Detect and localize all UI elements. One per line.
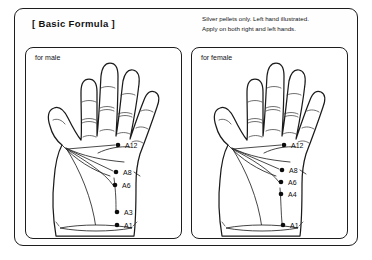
acupoint-label-a12-female: A12 <box>291 142 304 149</box>
acupoint-label-a1-female: A1 <box>290 222 299 229</box>
acupoint-dot-a1-female <box>281 223 286 228</box>
page-title: [ Basic Formula ] <box>32 18 115 29</box>
acupoint-label-a8-female: A8 <box>289 167 298 174</box>
acupoint-dot-a8-male <box>114 170 119 175</box>
acupoint-dot-a8-female <box>280 168 285 173</box>
panel-male: for male <box>25 47 182 239</box>
acupoint-label-a4-female: A4 <box>288 191 297 198</box>
outer-frame: [ Basic Formula ] Silver pellets only. L… <box>14 8 358 246</box>
acupoint-dot-a12-female <box>282 143 287 148</box>
acupoint-dot-a6-female <box>279 180 284 185</box>
acupoint-label-a12-male: A12 <box>125 142 138 149</box>
hand-outline-male <box>48 63 158 236</box>
acupoint-label-a3-male: A3 <box>124 209 133 216</box>
acupoint-label-a8-male: A8 <box>123 169 132 176</box>
acupoint-label-a6-male: A6 <box>122 182 131 189</box>
acupoint-dot-a4-female <box>279 192 284 197</box>
note-line-1: Silver pellets only. Left hand illustrat… <box>202 14 357 24</box>
acupoint-label-a1-male: A1 <box>124 222 133 229</box>
acupoint-dot-a3-male <box>115 210 120 215</box>
acupoint-label-a6-female: A6 <box>288 179 297 186</box>
hand-outline-female <box>214 63 324 236</box>
acupoint-dot-a12-male <box>116 143 121 148</box>
hand-diagram-male: A12 A8 A6 A3 A1 <box>26 48 182 239</box>
acupoint-dot-a1-male <box>115 223 120 228</box>
hand-diagram-female: A12 A8 A6 A4 A1 <box>192 48 348 239</box>
header: [ Basic Formula ] Silver pellets only. L… <box>15 9 359 49</box>
panel-label-male: for male <box>35 54 60 61</box>
panel-label-female: for female <box>201 54 232 61</box>
instruction-note: Silver pellets only. Left hand illustrat… <box>202 14 357 34</box>
note-line-2: Apply on both right and left hands. <box>202 24 357 34</box>
panel-female: for female <box>191 47 348 239</box>
acupoint-dot-a6-male <box>113 183 118 188</box>
page-root: [ Basic Formula ] Silver pellets only. L… <box>0 0 372 260</box>
